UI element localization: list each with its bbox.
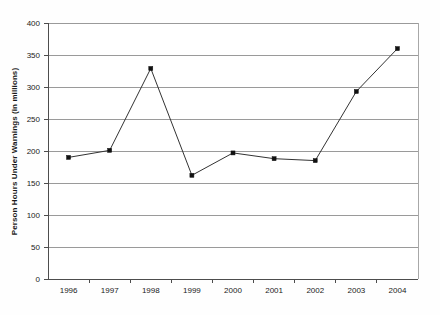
line-chart: Person Hours Under Warnings (in millions…: [0, 0, 440, 315]
x-tick-label: 2001: [265, 286, 283, 295]
y-tick-label: 300: [27, 83, 41, 92]
x-axis-tick-labels: 1996 1997 1998 1999 2000 2001 2002 2003 …: [60, 286, 407, 295]
y-tick-label: 200: [27, 147, 41, 156]
y-tick-label: 100: [27, 211, 41, 220]
x-tick-label: 1997: [101, 286, 119, 295]
data-point-1999: [190, 173, 194, 177]
y-axis-tickmarks: [44, 23, 48, 279]
data-point-2000: [231, 151, 235, 155]
y-tick-label: 400: [27, 19, 41, 28]
x-tick-label: 2004: [389, 286, 407, 295]
x-tick-label: 1996: [60, 286, 78, 295]
y-axis-tick-labels: 400 350 300 250 200 150 100 50 0: [27, 19, 41, 284]
x-tick-label: 2002: [306, 286, 324, 295]
y-tick-label: 50: [31, 243, 40, 252]
data-point-1997: [108, 148, 112, 152]
y-tick-label: 350: [27, 51, 41, 60]
data-point-2001: [272, 157, 276, 161]
y-tick-label: 150: [27, 179, 41, 188]
x-axis-tickmarks: [89, 279, 377, 283]
x-tick-label: 1999: [183, 286, 201, 295]
x-tick-label: 2003: [348, 286, 366, 295]
x-tick-label: 2000: [224, 286, 242, 295]
data-point-2004: [395, 47, 399, 51]
data-point-1996: [67, 155, 71, 159]
data-point-1998: [149, 66, 153, 70]
x-tick-label: 1998: [142, 286, 160, 295]
data-point-2003: [354, 89, 358, 93]
y-tick-label: 0: [36, 275, 41, 284]
y-tick-label: 250: [27, 115, 41, 124]
data-point-2002: [313, 159, 317, 163]
plot-area: 400 350 300 250 200 150 100 50 0 1996 19…: [0, 0, 440, 315]
